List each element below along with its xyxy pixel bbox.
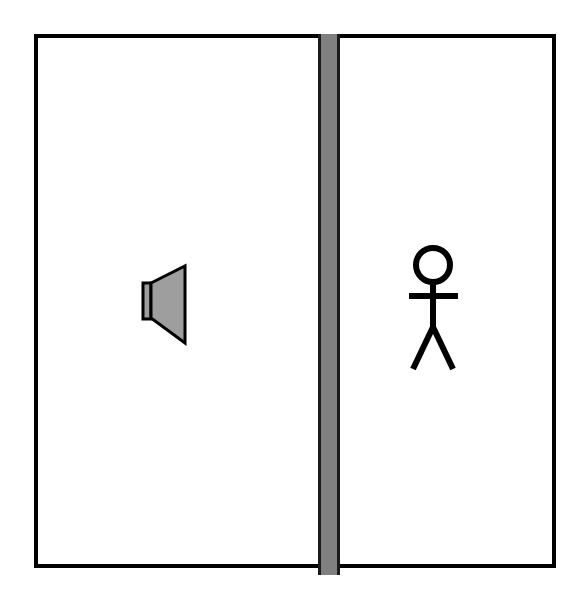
receiver-room-area: [340, 38, 552, 564]
dividing-wall-fill: [318, 34, 340, 575]
room-diagram: [0, 0, 574, 602]
dividing-wall: [318, 34, 340, 575]
person-head: [416, 248, 450, 282]
diagram-canvas: [0, 0, 574, 602]
